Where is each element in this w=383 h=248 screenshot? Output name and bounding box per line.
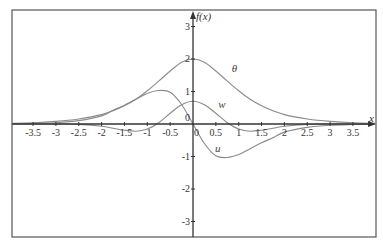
x-tick-label-origin: 0 <box>194 127 199 138</box>
y-tick-label: 3 <box>185 21 190 32</box>
x-tick-label: 2 <box>282 127 287 138</box>
x-tick-label: 3 <box>328 127 333 138</box>
y-tick-label: 1 <box>185 86 190 97</box>
x-tick-label: -3.5 <box>25 127 41 138</box>
x-tick-label: -0.5 <box>162 127 178 138</box>
x-tick-label: -2 <box>97 127 105 138</box>
chart: -3.5-3-2.5-2-1.5-1-0.50.511.522.533.50-3… <box>0 0 383 248</box>
curve-label-u: u <box>215 142 221 154</box>
y-tick-label: 2 <box>185 53 190 64</box>
curve-label-w: w <box>218 98 226 110</box>
y-tick-label: -2 <box>182 183 190 194</box>
curve-label-theta: θ <box>232 62 238 74</box>
x-tick-label: -1.5 <box>117 127 133 138</box>
y-tick-label: -1 <box>182 151 190 162</box>
x-axis-label: x <box>368 112 374 124</box>
x-tick-label: -2.5 <box>71 127 87 138</box>
x-tick-label: -3 <box>52 127 60 138</box>
x-tick-label: 1.5 <box>255 127 268 138</box>
y-tick-label: 0 <box>185 112 190 123</box>
x-tick-label: 1 <box>236 127 241 138</box>
x-tick-label: -1 <box>143 127 151 138</box>
y-tick-label: -3 <box>182 216 190 227</box>
y-axis-label: f(x) <box>196 10 212 23</box>
x-tick-label: 3.5 <box>347 127 360 138</box>
x-tick-label: 2.5 <box>301 127 314 138</box>
x-tick-label: 0.5 <box>210 127 223 138</box>
